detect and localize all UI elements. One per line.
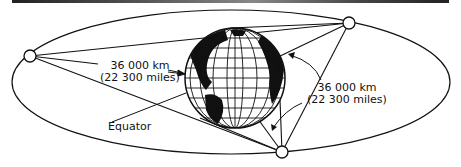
equator-label: Equator [108,121,151,133]
left-distance-miles: (22 300 miles) [100,72,180,84]
right-distance-miles: (22 300 miles) [307,94,387,106]
satellite-bottom [276,146,288,158]
orbit-diagram [0,0,461,167]
satellite-top-right [343,17,355,29]
right-arrowhead-bottom [271,124,277,131]
left-distance-label: 36 000 km (22 300 miles) [100,60,180,84]
right-distance-label: 36 000 km (22 300 miles) [307,82,387,106]
satellite-left [24,50,36,62]
equator-leader-line [112,93,186,122]
earth-globe [185,28,285,128]
equator-text: Equator [108,120,151,133]
right-arrowhead-top [288,52,295,59]
